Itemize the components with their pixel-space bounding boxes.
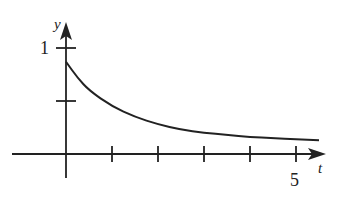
y-axis-label: y <box>54 16 61 33</box>
chart-canvas <box>0 0 337 202</box>
curve <box>66 62 319 140</box>
y-tick-label-1: 1 <box>40 38 49 59</box>
x-axis-label: t <box>318 160 322 177</box>
x-tick-label-5: 5 <box>290 170 299 191</box>
